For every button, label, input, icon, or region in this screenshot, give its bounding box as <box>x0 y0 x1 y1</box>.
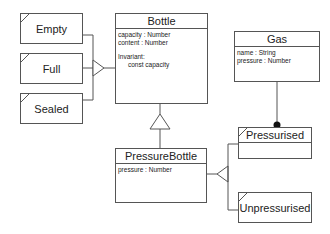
attribute: pressure : Number <box>118 166 204 174</box>
class-attributes: name : String pressure : Number <box>235 47 319 64</box>
state-empty[interactable]: Empty <box>20 13 83 44</box>
attribute: name : String <box>237 49 317 57</box>
invariant-label: Invariant: <box>118 53 205 61</box>
state-label: Sealed <box>34 103 68 115</box>
class-bottle[interactable]: Bottle capacity : Number content : Numbe… <box>115 13 208 104</box>
attribute: capacity : Number <box>118 31 205 39</box>
state-corner-icon <box>21 14 29 22</box>
class-pressure-bottle[interactable]: PressureBottle pressure : Number <box>115 148 207 203</box>
attribute: pressure : Number <box>237 57 317 65</box>
class-name: Gas <box>235 32 319 46</box>
state-label: Pressurised <box>239 128 311 142</box>
divider <box>239 142 311 143</box>
state-corner-icon <box>21 94 29 102</box>
state-group-triangle-right <box>217 166 228 182</box>
attribute: content : Number <box>118 39 205 47</box>
class-name: PressureBottle <box>116 149 206 163</box>
invariant-expression: const capacity <box>118 61 205 69</box>
state-corner-icon <box>21 54 29 62</box>
state-label: Unpressurised <box>240 202 311 214</box>
state-pressurised[interactable]: Pressurised <box>238 127 312 159</box>
uml-diagram: Empty Full Sealed Bottle capacity : Numb… <box>0 0 330 234</box>
state-label: Full <box>43 63 61 75</box>
class-gas[interactable]: Gas name : String pressure : Number <box>234 31 320 82</box>
class-attributes: pressure : Number <box>116 164 206 174</box>
class-attributes: capacity : Number content : Number Invar… <box>116 29 207 68</box>
state-corner-icon <box>239 193 247 201</box>
state-label: Empty <box>36 23 67 35</box>
class-name: Bottle <box>116 14 207 28</box>
state-corner-icon <box>239 128 247 136</box>
state-full[interactable]: Full <box>20 53 83 84</box>
state-unpressurised[interactable]: Unpressurised <box>238 192 312 223</box>
state-group-triangle-left <box>93 60 104 76</box>
generalization-triangle <box>150 114 170 129</box>
state-sealed[interactable]: Sealed <box>20 93 83 124</box>
